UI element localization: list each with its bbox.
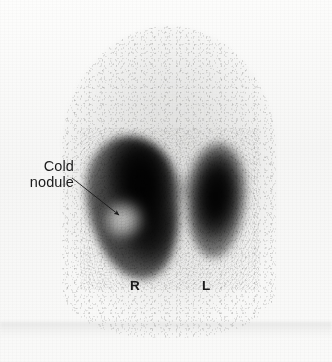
scintillation-noise-overlay xyxy=(80,128,260,290)
side-marker-left: L xyxy=(202,278,210,293)
cold-nodule-annotation-label: Cold nodule xyxy=(0,159,74,190)
film-edge-band xyxy=(0,322,332,338)
side-marker-right: R xyxy=(130,278,140,293)
thyroid-scintigraphy-figure: Cold nodule R L xyxy=(0,0,332,362)
